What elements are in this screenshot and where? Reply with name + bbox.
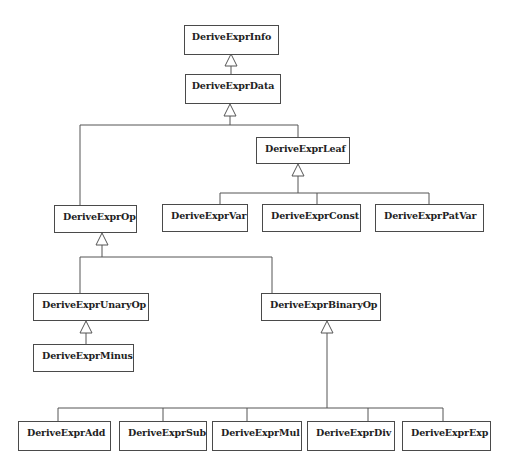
class-diagram: DeriveExprInfo DeriveExprData DeriveExpr… — [0, 0, 514, 472]
inheritance-arrow-icon — [292, 164, 304, 176]
class-deriveexprpatvar: DeriveExprPatVar — [375, 204, 484, 232]
inheritance-arrow-icon — [224, 104, 236, 116]
class-deriveexprminus: DeriveExprMinus — [33, 344, 134, 372]
class-deriveexprinfo: DeriveExprInfo — [184, 25, 279, 55]
inheritance-arrow-icon — [80, 321, 92, 333]
class-deriveexprdiv: DeriveExprDiv — [307, 421, 395, 451]
class-deriveexprvar: DeriveExprVar — [162, 204, 248, 232]
class-deriveexprmul: DeriveExprMul — [212, 421, 302, 451]
class-deriveexprop: DeriveExprOp — [54, 205, 137, 233]
class-deriveexprbinaryop: DeriveExprBinaryOp — [261, 293, 381, 321]
inheritance-arrow-icon — [225, 54, 237, 66]
class-deriveexprconst: DeriveExprConst — [262, 204, 361, 232]
inheritance-arrow-icon — [96, 233, 108, 245]
class-deriveexprunaryop: DeriveExprUnaryOp — [33, 293, 149, 321]
class-deriveexprdata: DeriveExprData — [185, 74, 281, 104]
inheritance-arrow-icon — [321, 321, 333, 333]
class-deriveexpradd: DeriveExprAdd — [18, 421, 111, 451]
connectors — [0, 0, 514, 472]
class-deriveexprleaf: DeriveExprLeaf — [256, 137, 350, 164]
class-deriveexprsub: DeriveExprSub — [119, 421, 207, 451]
class-deriveexprexp: DeriveExprExp — [402, 421, 491, 451]
